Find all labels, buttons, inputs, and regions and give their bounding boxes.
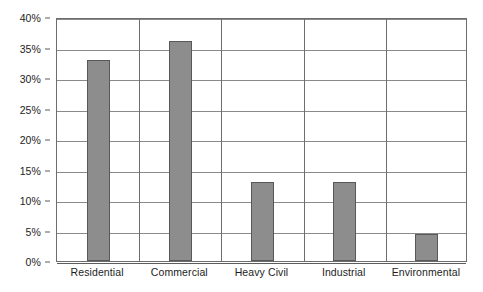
x-axis-tick-label: Residential	[71, 266, 124, 278]
y-axis-tick-label: 30%	[20, 73, 41, 85]
y-axis-tick-label: 40%	[20, 12, 41, 24]
y-axis-tick-mark	[45, 231, 50, 232]
x-axis-tick-label: Commercial	[151, 266, 208, 278]
y-axis-tick-mark	[45, 262, 50, 263]
x-axis-tick-label: Environmental	[392, 266, 460, 278]
bar	[333, 182, 356, 261]
y-axis-tick-label: 5%	[26, 226, 41, 238]
y-axis-tick-mark	[45, 201, 50, 202]
y-axis-tick-mark	[45, 109, 50, 110]
y-axis-tick-mark	[45, 79, 50, 80]
bar-chart: 0%5%10%15%20%25%30%35%40% ResidentialCom…	[0, 0, 483, 292]
y-axis: 0%5%10%15%20%25%30%35%40%	[0, 18, 50, 262]
y-axis-tick-mark	[45, 48, 50, 49]
y-axis-tick-mark	[45, 18, 50, 19]
y-axis-tick-label: 10%	[20, 195, 41, 207]
y-axis-tick-label: 20%	[20, 134, 41, 146]
bar	[169, 41, 192, 261]
y-axis-tick-label: 15%	[20, 165, 41, 177]
bar	[415, 234, 438, 261]
x-axis: ResidentialCommercialHeavy CivilIndustri…	[56, 264, 467, 288]
y-axis-tick-label: 35%	[20, 43, 41, 55]
y-axis-tick-mark	[45, 170, 50, 171]
y-axis-tick-label: 0%	[26, 256, 41, 268]
plot-area	[56, 18, 467, 262]
x-axis-tick-label: Heavy Civil	[235, 266, 289, 278]
bar	[251, 182, 274, 261]
y-axis-tick-mark	[45, 140, 50, 141]
bars-layer	[57, 19, 466, 261]
x-axis-tick-label: Industrial	[322, 266, 366, 278]
y-axis-tick-label: 25%	[20, 104, 41, 116]
bar	[87, 60, 110, 261]
